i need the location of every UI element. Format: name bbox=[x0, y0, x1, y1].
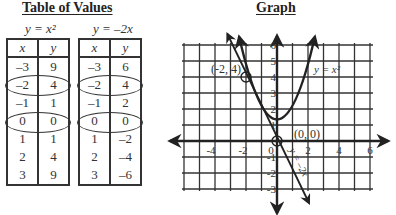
y-tick-label: 5 bbox=[271, 55, 277, 67]
y-tick-label: 1 bbox=[271, 119, 277, 131]
point-label-neg2-4: (-2, 4) bbox=[211, 62, 241, 76]
curve-label-parabola: y = x² bbox=[313, 63, 341, 75]
y-tick-label: -1 bbox=[267, 151, 276, 163]
x-tick-label: 4 bbox=[336, 144, 342, 156]
y-tick-label: 4 bbox=[271, 71, 277, 83]
x-tick-label: 2 bbox=[305, 144, 311, 156]
y-tick-label: 2 bbox=[271, 103, 277, 115]
graph: -4 -2 0 2 4 6 6 5 4 3 2 1 -1 -2 -3 (-2, … bbox=[0, 0, 396, 215]
y-tick-label: 3 bbox=[271, 87, 277, 99]
x-tick-label: 6 bbox=[367, 144, 373, 156]
y-tick-label: -2 bbox=[267, 167, 276, 179]
point-label-origin: (0, 0) bbox=[294, 127, 320, 141]
y-tick-label: -3 bbox=[267, 183, 277, 195]
x-tick-label: -2 bbox=[238, 144, 247, 156]
x-tick-label: -4 bbox=[206, 144, 216, 156]
y-tick-label: 6 bbox=[271, 39, 277, 51]
